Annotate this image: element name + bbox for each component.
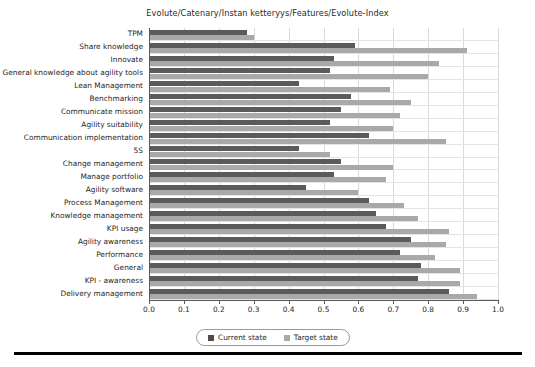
y-axis-label: KPI - awareness <box>85 277 143 285</box>
y-axis-label: 5S <box>134 147 143 155</box>
x-axis-ticks: 0.00.10.20.30.40.50.60.70.80.91.0 <box>0 301 535 317</box>
gridline-row <box>149 208 498 209</box>
gridline-row <box>149 195 498 196</box>
gridline-row <box>149 131 498 132</box>
x-tick-mark-0.9 <box>463 301 464 304</box>
bar-current-state <box>149 107 341 112</box>
x-tick-mark-0.6 <box>358 301 359 304</box>
chart-title: Evolute/Catenary/Instan ketteryys/Featur… <box>0 8 535 18</box>
y-axis-label: Benchmarking <box>89 95 143 103</box>
x-tick-mark-0.5 <box>324 301 325 304</box>
bar-target-state <box>149 268 460 273</box>
bar-current-state <box>149 30 247 35</box>
x-tick-label-0.3: 0.3 <box>239 305 269 314</box>
legend-label-current-state: Current state <box>218 333 267 342</box>
bar-current-state <box>149 185 306 190</box>
bar-target-state <box>149 35 254 40</box>
bar-target-state <box>149 48 467 53</box>
y-axis-label: Share knowledge <box>79 43 143 51</box>
bar-target-state <box>149 113 400 118</box>
x-tick-mark-0.2 <box>219 301 220 304</box>
bar-target-state <box>149 165 393 170</box>
x-tick-mark-0.3 <box>254 301 255 304</box>
bar-current-state <box>149 56 334 61</box>
x-tick-label-0.0: 0.0 <box>134 305 164 314</box>
x-tick-mark-0.4 <box>289 301 290 304</box>
x-tick-mark-0.0 <box>149 301 150 304</box>
y-axis-label: KPI usage <box>107 225 143 233</box>
gridline-row <box>149 221 498 222</box>
chart-legend: Current state Target state <box>196 329 350 346</box>
gridline-row <box>149 247 498 248</box>
bar-current-state <box>149 81 299 86</box>
gridline-row <box>149 79 498 80</box>
gridline-row <box>149 234 498 235</box>
bar-target-state <box>149 281 460 286</box>
bar-target-state <box>149 100 411 105</box>
gridline-row <box>149 182 498 183</box>
plot-area <box>149 28 498 300</box>
bar-target-state <box>149 242 446 247</box>
bar-target-state <box>149 216 418 221</box>
x-tick-mark-0.7 <box>393 301 394 304</box>
bar-target-state <box>149 190 358 195</box>
y-axis-label: General <box>114 264 143 272</box>
bar-current-state <box>149 289 449 294</box>
bar-target-state <box>149 87 390 92</box>
gridline-row <box>149 92 498 93</box>
x-tick-label-0.1: 0.1 <box>169 305 199 314</box>
bar-target-state <box>149 203 404 208</box>
gridline-row <box>149 66 498 67</box>
bar-target-state <box>149 152 330 157</box>
x-tick-mark-1.0 <box>498 301 499 304</box>
gridline-row <box>149 273 498 274</box>
bar-current-state <box>149 276 418 281</box>
bar-current-state <box>149 263 421 268</box>
y-axis-label: TPM <box>128 30 143 38</box>
y-axis-label: Process Management <box>64 199 143 207</box>
x-tick-label-0.5: 0.5 <box>309 305 339 314</box>
gridline-row <box>149 105 498 106</box>
chart-figure: Evolute/Catenary/Instan ketteryys/Featur… <box>0 0 535 367</box>
legend-swatch-current-icon <box>208 335 214 341</box>
bar-current-state <box>149 224 386 229</box>
bar-target-state <box>149 126 393 131</box>
bar-current-state <box>149 237 411 242</box>
bar-current-state <box>149 172 334 177</box>
y-axis-label: Change management <box>63 160 143 168</box>
legend-item-target-state: Target state <box>284 333 338 342</box>
gridline-row <box>149 40 498 41</box>
legend-label-target-state: Target state <box>294 333 338 342</box>
legend-swatch-target-icon <box>284 335 290 341</box>
bar-current-state <box>149 159 341 164</box>
x-tick-label-0.8: 0.8 <box>413 305 443 314</box>
x-tick-label-0.2: 0.2 <box>204 305 234 314</box>
y-axis-label: Delivery management <box>60 290 143 298</box>
y-axis-label: Agility software <box>86 186 143 194</box>
bar-target-state <box>149 139 446 144</box>
bar-target-state <box>149 74 428 79</box>
y-axis-label: Manage portfolio <box>80 173 143 181</box>
bar-current-state <box>149 250 400 255</box>
bar-current-state <box>149 120 330 125</box>
bar-current-state <box>149 146 299 151</box>
x-tick-mark-0.1 <box>184 301 185 304</box>
y-axis-label: Lean Management <box>74 82 143 90</box>
x-tick-mark-0.8 <box>428 301 429 304</box>
bottom-divider <box>14 352 522 355</box>
y-axis-line <box>149 28 150 300</box>
bar-current-state <box>149 43 355 48</box>
bar-current-state <box>149 133 369 138</box>
bar-target-state <box>149 61 439 66</box>
bar-current-state <box>149 211 376 216</box>
y-axis-label: Knowledge management <box>51 212 143 220</box>
gridline-row <box>149 144 498 145</box>
x-tick-label-0.6: 0.6 <box>343 305 373 314</box>
y-axis-label: Innovate <box>111 56 143 64</box>
bar-target-state <box>149 255 435 260</box>
plot-region: TPMShare knowledgeInnovateGeneral knowle… <box>0 28 535 300</box>
bar-target-state <box>149 229 449 234</box>
x-tick-label-0.7: 0.7 <box>378 305 408 314</box>
gridline-row <box>149 286 498 287</box>
x-tick-label-1.0: 1.0 <box>483 305 513 314</box>
